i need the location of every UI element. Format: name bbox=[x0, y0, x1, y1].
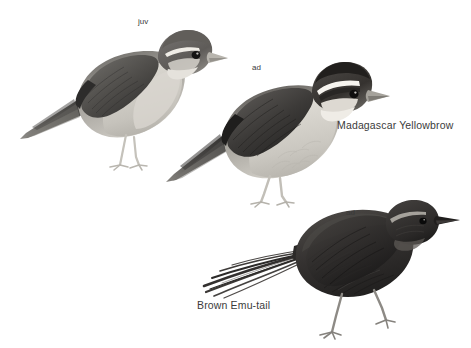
age-label-adult-yellowbrow: ad bbox=[252, 63, 261, 72]
emutail-feet bbox=[320, 320, 395, 339]
emutail-eye bbox=[419, 218, 426, 224]
juvenile-feet bbox=[110, 165, 147, 170]
emutail-head bbox=[386, 200, 439, 245]
emutail-tail bbox=[204, 250, 304, 298]
age-label-adult-emutail: ad bbox=[346, 208, 355, 217]
species-label-brown-emutail: Brown Emu-tail bbox=[197, 299, 270, 311]
age-label-juvenile: juv bbox=[138, 17, 148, 26]
bird-figure-brown-emutail-adult bbox=[190, 198, 445, 343]
emutail-bill bbox=[434, 216, 460, 225]
adult-tail bbox=[166, 134, 228, 182]
illustration-plate: Madagascar Yellowbrow Brown Emu-tail juv… bbox=[0, 0, 471, 348]
juvenile-tail bbox=[20, 99, 82, 139]
adult-bill bbox=[366, 90, 390, 102]
adult-eye bbox=[349, 90, 358, 98]
juvenile-legs bbox=[120, 135, 139, 165]
species-label-madagascar-yellowbrow: Madagascar Yellowbrow bbox=[337, 119, 453, 131]
